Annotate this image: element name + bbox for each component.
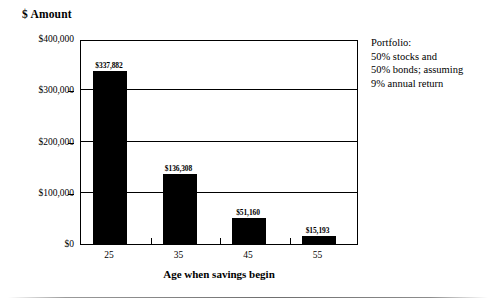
bar bbox=[302, 236, 336, 244]
annotation-line-1: Portfolio: bbox=[371, 36, 495, 50]
bar-value-label: $15,193 bbox=[291, 226, 345, 235]
bar bbox=[93, 71, 127, 244]
bar-value-label: $136,308 bbox=[152, 164, 206, 173]
x-axis-tick-mark bbox=[220, 238, 221, 244]
portfolio-annotation: Portfolio: 50% stocks and 50% bonds; ass… bbox=[371, 36, 495, 90]
y-axis-tick-label: $0 bbox=[65, 240, 75, 250]
bar bbox=[163, 174, 197, 244]
annotation-line-4: 9% annual return bbox=[371, 77, 495, 91]
y-axis-tick-mark bbox=[68, 91, 74, 92]
bar bbox=[232, 218, 266, 244]
x-axis-title: Age when savings begin bbox=[80, 268, 358, 280]
bar-chart-figure: $ Amount $0$100,000$200,000$300,000$400,… bbox=[0, 0, 495, 305]
y-axis-title: $ Amount bbox=[22, 8, 72, 20]
plot-area bbox=[80, 40, 358, 245]
annotation-line-3: 50% bonds; assuming bbox=[371, 63, 495, 77]
y-axis-tick-mark bbox=[68, 194, 74, 195]
x-axis-tick-label: 35 bbox=[149, 250, 209, 260]
x-axis-tick-mark bbox=[290, 238, 291, 244]
bar-value-label: $337,882 bbox=[82, 61, 136, 70]
bottom-divider bbox=[8, 297, 488, 298]
bar-value-label: $51,160 bbox=[221, 208, 275, 217]
y-axis-tick-label: $400,000 bbox=[38, 35, 74, 45]
x-axis-tick-label: 55 bbox=[288, 250, 348, 260]
y-axis-tick-labels: $0$100,000$200,000$300,000$400,000 bbox=[0, 40, 74, 245]
y-axis-tick-mark bbox=[68, 143, 74, 144]
x-axis-tick-mark bbox=[151, 238, 152, 244]
annotation-line-2: 50% stocks and bbox=[371, 50, 495, 64]
x-axis-tick-label: 45 bbox=[218, 250, 278, 260]
x-axis-tick-label: 25 bbox=[79, 250, 139, 260]
